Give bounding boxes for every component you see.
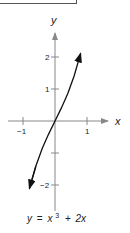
cubic-function-graph: y x −1 1 2 1 −2 y = x 3 + 2x	[0, 0, 130, 233]
x-tick-label-neg1: −1	[17, 127, 27, 136]
y-axis-label: y	[50, 14, 58, 26]
caption-y: y	[26, 213, 33, 224]
x-tick-label-1: 1	[85, 127, 90, 136]
caption-plus: +	[65, 213, 71, 224]
caption-equals: =	[37, 213, 43, 224]
x-axis-label: x	[114, 115, 121, 127]
curve-lower-arrow	[29, 166, 35, 188]
y-tick-label-1: 1	[45, 85, 50, 94]
equation-caption: y = x 3 + 2x	[26, 209, 87, 224]
caption-2x: 2x	[75, 213, 88, 224]
y-tick-label-neg2: −2	[40, 181, 50, 190]
caption-exponent: 3	[55, 212, 59, 219]
y-tick-label-2: 2	[45, 53, 50, 62]
caption-x: x	[46, 213, 53, 224]
